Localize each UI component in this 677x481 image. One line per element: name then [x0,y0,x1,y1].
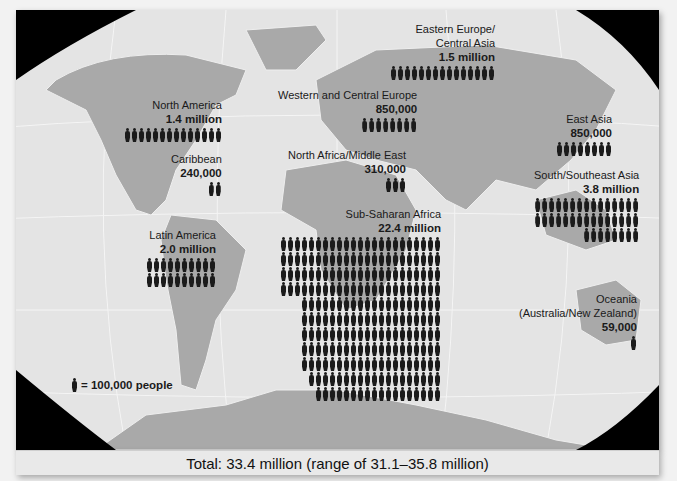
person-icon [301,267,308,281]
person-icon [385,297,392,311]
person-icon [308,237,315,251]
person-icon [385,178,392,192]
person-icon [541,198,548,212]
person-icon [590,213,597,227]
person-icon [322,372,329,386]
person-icon [357,372,364,386]
person-icon [371,342,378,356]
person-icon [632,213,639,227]
person-icon-row [534,198,639,212]
person-icon [280,237,287,251]
person-icon [427,387,434,401]
person-icon-row [301,357,441,371]
person-icon [420,387,427,401]
person-icon [322,327,329,341]
person-icon [406,312,413,326]
person-icon [420,282,427,296]
person-icon-row [280,282,441,296]
person-icon [390,66,397,80]
person-icon [392,312,399,326]
person-icon [329,282,336,296]
person-icon [378,387,385,401]
person-icon [308,297,315,311]
person-icon [399,252,406,266]
person-icon [153,258,160,272]
person-icon [357,327,364,341]
region-name: East Asia [556,112,612,126]
person-icon-row [630,336,637,350]
person-icon [301,312,308,326]
person-icon [280,267,287,281]
person-icon [159,128,166,142]
person-icon [434,342,441,356]
person-icon [287,252,294,266]
person-icon [427,327,434,341]
person-icon [280,282,287,296]
person-icon [146,258,153,272]
person-icon [336,297,343,311]
person-icon [371,372,378,386]
person-icons [519,336,637,350]
person-icon [385,357,392,371]
person-icon [350,312,357,326]
person-icon [597,213,604,227]
person-icon [322,267,329,281]
region-oceania: Oceania (Australia/New Zealand) 59,000 [519,292,637,350]
person-icon [460,66,467,80]
person-icon [195,258,202,272]
person-icon [329,252,336,266]
person-icon [315,297,322,311]
person-icon [618,228,625,242]
person-icon [301,327,308,341]
person-icon [322,357,329,371]
person-icon [350,387,357,401]
region-name-line2: (Australia/New Zealand) [519,306,637,320]
person-icon [308,267,315,281]
person-icon [350,267,357,281]
person-icon [406,237,413,251]
person-icon-row [280,252,441,266]
person-icon [569,213,576,227]
person-icon [336,327,343,341]
person-icon [434,312,441,326]
person-icon [209,258,216,272]
person-icon [364,267,371,281]
person-icon [378,282,385,296]
person-icon [336,387,343,401]
person-icon [308,252,315,266]
person-icon [555,198,562,212]
person-icon [418,66,425,80]
person-icon [406,267,413,281]
person-icon [152,128,159,142]
region-sub-saharan-africa: Sub-Saharan Africa 22.4 million [280,207,441,401]
person-icon [427,252,434,266]
person-icon [350,297,357,311]
person-icon [411,66,418,80]
person-icon-row [146,273,216,287]
person-icon [434,327,441,341]
region-value: 240,000 [171,166,222,180]
person-icon [406,297,413,311]
person-icon [329,327,336,341]
person-icon [364,252,371,266]
person-icon [410,118,417,132]
region-name: South/Southeast Asia [534,168,639,182]
person-icon [343,267,350,281]
person-icon-row [556,142,612,156]
person-icon [385,387,392,401]
person-icon [392,178,399,192]
person-icon [618,198,625,212]
person-icon [598,142,605,156]
person-icon [336,237,343,251]
person-icon [406,252,413,266]
person-icons [556,142,612,156]
person-icon [350,342,357,356]
person-icon [329,372,336,386]
person-icon [399,267,406,281]
person-icon [336,282,343,296]
person-icon [611,213,618,227]
person-icon [534,213,541,227]
person-icon [413,312,420,326]
region-name-line1: Oceania [519,292,637,306]
person-icon [188,258,195,272]
